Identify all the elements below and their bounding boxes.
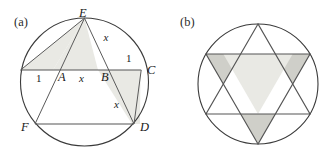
panel-a-caption: (a) [14,15,28,29]
length-label-x-lower: x [113,98,119,110]
point-label-C: C [147,63,156,77]
point-label-E: E [78,6,87,20]
point-label-D: D [139,120,149,134]
length-label-x-middle: x [78,72,84,84]
length-label-one-right: 1 [126,52,132,64]
point-label-A: A [57,70,66,84]
shade-triangle-bottom-b [241,114,276,144]
panel-b-caption: (b) [180,15,195,29]
panel-a-svg: (a) E A B C F D 1 x x 1 x (b) [0,0,333,161]
length-label-x-upper: x [103,31,109,43]
point-label-F: F [20,120,29,134]
point-label-B: B [101,70,109,84]
shade-triangle-center-b [223,54,292,114]
length-label-one-left: 1 [36,72,42,84]
figure-root: (a) E A B C F D 1 x x 1 x (b) [0,0,333,161]
